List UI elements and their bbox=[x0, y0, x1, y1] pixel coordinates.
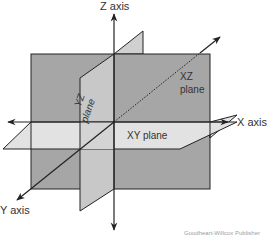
xy-plane-label: XY plane bbox=[127, 130, 168, 141]
x-axis-label: X axis bbox=[237, 116, 267, 128]
xz-plane-label-2: plane bbox=[180, 84, 205, 95]
z-axis-label: Z axis bbox=[100, 0, 130, 12]
xz-plane-label-1: XZ bbox=[180, 71, 193, 82]
y-axis-positive bbox=[200, 37, 220, 53]
credit-text: Goodheart-Willcox Publisher bbox=[184, 230, 260, 236]
yz-plane-back bbox=[114, 31, 143, 54]
coordinate-planes-diagram: Z axis X axis Y axis YZ plane XZ plane X… bbox=[0, 0, 272, 237]
y-axis-label: Y axis bbox=[0, 204, 30, 216]
